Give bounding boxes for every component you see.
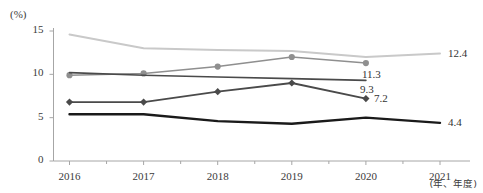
x-axis-caption: (年、年度) — [430, 176, 477, 190]
data-point-marker-circle — [363, 60, 369, 66]
plot-area — [0, 0, 483, 193]
x-tick-label: 2018 — [191, 170, 245, 182]
data-point-label: 11.3 — [362, 68, 381, 80]
data-point-label: 7.2 — [374, 92, 388, 104]
series-line-series-dark-gray-thin — [70, 73, 366, 81]
data-point-marker-diamond — [214, 88, 221, 95]
series-line-series-lightest-gray — [70, 34, 441, 57]
data-point-label: 9.3 — [360, 83, 374, 95]
x-tick-label: 2017 — [117, 170, 171, 182]
data-point-label: 12.4 — [448, 47, 467, 59]
x-tick-label: 2016 — [43, 170, 97, 182]
data-point-marker-diamond — [140, 98, 147, 105]
y-tick-label: 15 — [18, 23, 44, 35]
data-point-marker-diamond — [362, 95, 369, 102]
y-tick-label: 0 — [18, 153, 44, 165]
y-tick-label: 10 — [18, 66, 44, 78]
data-point-label: 4.4 — [448, 116, 462, 128]
y-tick-label: 5 — [18, 110, 44, 122]
data-point-marker-circle — [215, 63, 221, 69]
data-point-marker-diamond — [66, 98, 73, 105]
data-point-marker-circle — [289, 54, 295, 60]
x-tick-label: 2020 — [339, 170, 393, 182]
line-chart: (%) 151050 201620172018201920202021 12.4… — [0, 0, 483, 193]
series-layer — [66, 34, 440, 123]
y-axis-ticks — [50, 31, 54, 161]
x-axis-ticks — [70, 161, 441, 165]
x-tick-label: 2019 — [265, 170, 319, 182]
series-line-series-black-thick — [70, 114, 441, 124]
data-point-marker-diamond — [288, 79, 295, 86]
